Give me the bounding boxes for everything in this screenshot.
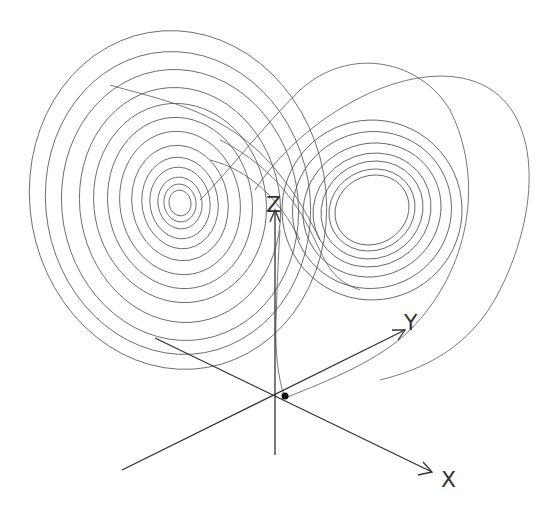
x-axis (155, 338, 432, 472)
y-axis (122, 330, 405, 470)
origin-point-icon (282, 393, 289, 400)
z-axis-label: Z (266, 194, 281, 216)
lorenz-attractor-diagram (0, 0, 552, 511)
x-axis-label: X (441, 469, 456, 491)
coordinate-axes (122, 210, 432, 475)
y-axis-label: Y (404, 312, 417, 334)
